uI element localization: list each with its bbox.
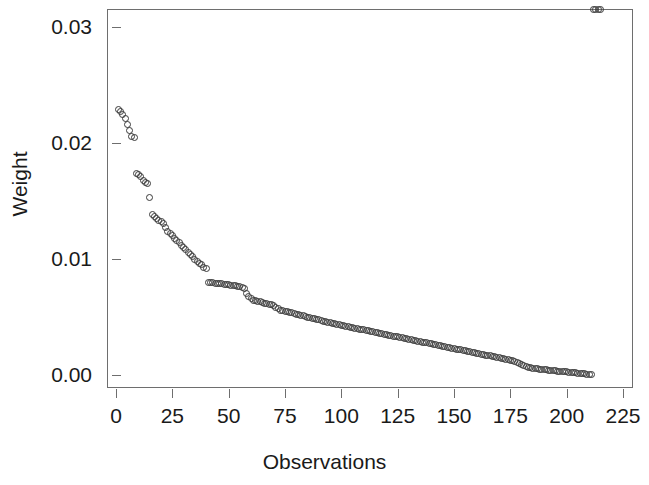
- x-axis-tick-mark: [341, 389, 342, 398]
- x-axis-tick-mark: [285, 389, 286, 398]
- x-axis-tick-mark: [510, 389, 511, 398]
- y-axis-tick-mark: [112, 27, 121, 28]
- y-axis-tick-mark: [112, 259, 121, 260]
- data-point: [144, 180, 151, 187]
- x-axis-tick-mark: [567, 389, 568, 398]
- y-axis-tick-mark: [112, 375, 121, 376]
- data-point: [588, 371, 595, 378]
- x-axis-tick-mark: [398, 389, 399, 398]
- x-axis-title: Observations: [0, 450, 649, 474]
- y-axis-tick-label: 0.03: [20, 16, 92, 37]
- x-axis-tick-mark: [229, 389, 230, 398]
- x-axis-tick-mark: [454, 389, 455, 398]
- data-point: [146, 194, 153, 201]
- y-axis-tick-label: 0.01: [20, 248, 92, 269]
- x-axis-tick-label: 225: [588, 404, 649, 428]
- scatter-points-layer: [107, 9, 633, 388]
- data-point: [203, 265, 210, 272]
- data-point: [131, 134, 138, 141]
- x-axis-tick-mark: [116, 389, 117, 398]
- data-point: [597, 6, 604, 13]
- y-axis-tick-mark: [112, 143, 121, 144]
- y-axis-title: Weight: [8, 124, 32, 244]
- x-axis-tick-mark: [172, 389, 173, 398]
- x-axis-tick-mark: [623, 389, 624, 398]
- y-axis-tick-label: 0.00: [20, 364, 92, 385]
- chart-figure: 0.000.010.020.03 02550751001251501752002…: [0, 0, 649, 485]
